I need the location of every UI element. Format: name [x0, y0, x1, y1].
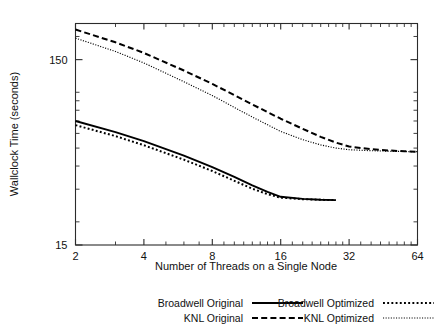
- x-axis-title: Number of Threads on a Single Node: [155, 260, 337, 272]
- x-tick-label: 64: [411, 250, 423, 262]
- x-tick-label: 2: [72, 250, 78, 262]
- y-axis-title: Wallclock Time (seconds): [8, 72, 20, 196]
- x-tick-label: 32: [343, 250, 355, 262]
- legend-label: KNL Original: [184, 312, 243, 324]
- legend-label: KNL Optimized: [304, 312, 374, 324]
- legend-label: Broadwell Optimized: [278, 297, 374, 309]
- y-tick-label: 15: [55, 239, 67, 251]
- legend-label: Broadwell Original: [158, 297, 243, 309]
- y-tick-label: 150: [49, 54, 67, 66]
- chart-background: [0, 0, 446, 331]
- wallclock-time-vs-threads-chart: 248163264 15150 Number of Threads on a S…: [0, 0, 446, 331]
- x-tick-label: 4: [141, 250, 147, 262]
